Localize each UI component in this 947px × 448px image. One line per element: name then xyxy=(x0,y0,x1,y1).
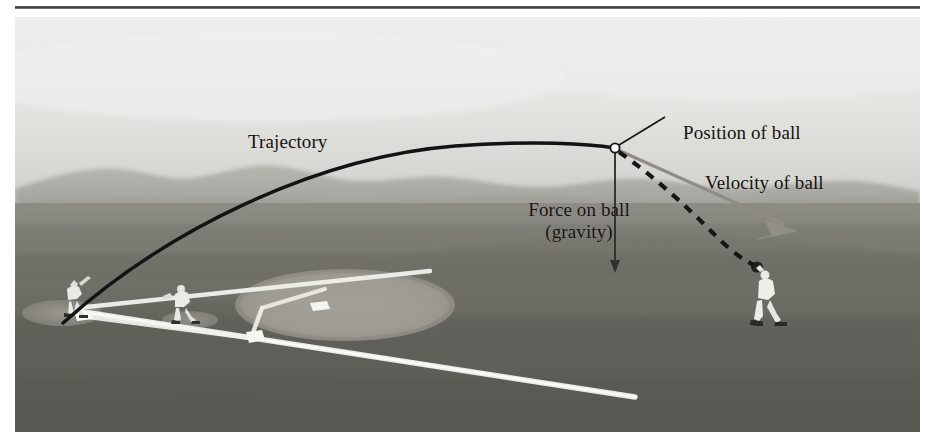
figure-root: Trajectory Position of ball Velocity of … xyxy=(0,0,947,448)
label-trajectory: Trajectory xyxy=(248,131,327,153)
force-on-ball-line1: Force on ball xyxy=(528,199,630,220)
photograph-plate: Trajectory Position of ball Velocity of … xyxy=(15,17,920,432)
top-horizontal-rule xyxy=(15,6,920,9)
scene-illustration xyxy=(15,17,920,432)
label-force-on-ball: Force on ball (gravity) xyxy=(504,199,654,244)
force-on-ball-line2: (gravity) xyxy=(504,221,654,243)
label-velocity-of-ball: Velocity of ball xyxy=(705,172,824,194)
label-position-of-ball: Position of ball xyxy=(683,122,801,144)
